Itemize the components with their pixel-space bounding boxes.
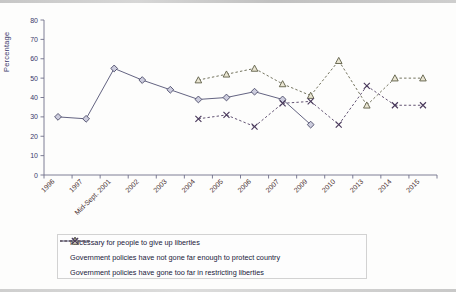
series-line-2	[339, 86, 367, 125]
data-point-marker	[364, 83, 370, 89]
series-line-0	[226, 92, 254, 98]
chart-figure: Percentage 0102030405060708019961997Mid-…	[0, 0, 456, 292]
y-tick-label: 10	[30, 152, 38, 159]
series-line-2	[198, 115, 226, 119]
data-point-marker	[223, 112, 229, 118]
series-line-0	[114, 68, 142, 80]
series-line-1	[339, 61, 367, 106]
y-tick-label: 50	[30, 75, 38, 82]
x-tick-label: 2005	[208, 178, 224, 194]
series-line-1	[226, 68, 254, 74]
series-line-1	[198, 74, 226, 80]
data-point-marker	[167, 86, 174, 93]
series-line-1	[367, 78, 395, 105]
series-line-2	[226, 115, 254, 127]
series-line-0	[58, 117, 86, 119]
x-tick-label: 2006	[236, 178, 252, 194]
data-point-marker	[335, 57, 342, 63]
data-point-marker	[252, 124, 258, 130]
y-tick-label: 20	[30, 133, 38, 140]
y-tick-label: 30	[30, 113, 38, 120]
series-line-2	[255, 103, 283, 126]
series-line-2	[311, 101, 339, 124]
data-point-marker	[139, 77, 146, 84]
data-point-marker	[55, 113, 62, 120]
chart-legend: Necessary for people to give up libertie…	[57, 234, 367, 279]
legend-item-1: Government policies have not gone far en…	[58, 250, 366, 265]
data-point-marker	[251, 65, 258, 71]
series-line-1	[283, 84, 311, 96]
x-dashed-key	[58, 235, 92, 247]
data-point-marker	[223, 94, 230, 101]
data-point-marker	[420, 75, 427, 81]
data-point-marker	[83, 115, 90, 122]
x-tick-label: 1996	[40, 178, 56, 194]
series-line-1	[311, 61, 339, 96]
data-point-marker	[251, 88, 258, 95]
x-tick-label: 2002	[124, 178, 140, 194]
x-tick-label: 2015	[405, 178, 421, 194]
data-point-marker	[336, 122, 342, 128]
data-point-marker	[279, 81, 286, 87]
y-tick-label: 40	[30, 94, 38, 101]
y-tick-label: 80	[30, 17, 38, 24]
data-point-marker	[308, 98, 314, 104]
data-point-marker	[195, 96, 202, 103]
series-line-0	[283, 99, 311, 124]
x-tick-label: 2003	[152, 178, 168, 194]
x-tick-label: 2014	[377, 178, 393, 194]
data-point-marker	[420, 102, 426, 108]
y-tick-label: 0	[34, 172, 38, 179]
data-point-marker	[307, 92, 314, 98]
x-tick-label: 1997	[68, 178, 84, 194]
series-line-0	[170, 90, 198, 100]
x-tick-label: 2004	[180, 178, 196, 194]
x-tick-label: 2013	[349, 178, 365, 194]
y-tick-label: 60	[30, 55, 38, 62]
series-line-0	[198, 98, 226, 100]
legend-label-2: Government policies have gone too far in…	[70, 268, 264, 277]
series-line-2	[367, 86, 395, 105]
data-point-marker	[111, 65, 118, 72]
series-line-1	[255, 68, 283, 84]
x-tick-label: 2007	[264, 178, 280, 194]
series-line-0	[86, 68, 114, 118]
legend-label-1: Government policies have not gone far en…	[70, 253, 280, 262]
y-tick-label: 70	[30, 36, 38, 43]
x-tick-label: 2009	[292, 178, 308, 194]
series-line-0	[142, 80, 170, 90]
legend-item-0: Necessary for people to give up libertie…	[58, 235, 366, 250]
x-tick-label: 2010	[320, 178, 336, 194]
legend-item-2: Government policies have gone too far in…	[58, 265, 366, 280]
data-point-marker	[364, 102, 371, 108]
series-line-0	[255, 92, 283, 100]
